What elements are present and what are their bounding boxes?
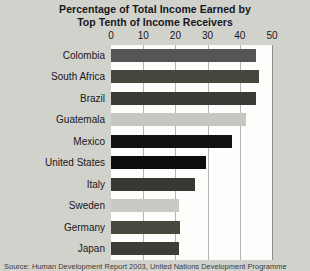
bar-row <box>111 174 272 196</box>
bar-japan <box>111 242 179 255</box>
bar-row <box>111 67 272 89</box>
bar-row <box>111 217 272 239</box>
bar-row <box>111 153 272 175</box>
category-label-germany: Germany <box>0 222 105 233</box>
bar-mexico <box>111 135 232 148</box>
bar-guatemala <box>111 113 246 126</box>
bar-row <box>111 45 272 67</box>
bar-sweden <box>111 199 179 212</box>
bar-series <box>111 45 272 260</box>
bar-row <box>111 88 272 110</box>
bar-south-africa <box>111 70 259 83</box>
category-axis-labels: ColombiaSouth AfricaBrazilGuatemalaMexic… <box>0 45 108 260</box>
bar-italy <box>111 178 195 191</box>
x-axis-tick-labels: 01020304050 <box>111 30 272 44</box>
x-tick-label-30: 30 <box>202 30 213 41</box>
category-label-japan: Japan <box>0 243 105 254</box>
bar-germany <box>111 221 180 234</box>
bar-brazil <box>111 92 256 105</box>
category-label-mexico: Mexico <box>0 136 105 147</box>
category-label-brazil: Brazil <box>0 93 105 104</box>
bar-colombia <box>111 49 256 62</box>
category-label-sweden: Sweden <box>0 200 105 211</box>
category-label-south-africa: South Africa <box>0 71 105 82</box>
plot-area <box>111 45 273 260</box>
category-label-united-states: United States <box>0 157 105 168</box>
bar-row <box>111 131 272 153</box>
category-label-italy: Italy <box>0 179 105 190</box>
bar-united-states <box>111 156 206 169</box>
bar-row <box>111 196 272 218</box>
x-tick-label-10: 10 <box>138 30 149 41</box>
chart-title-line-1: Percentage of Total Income Earned by <box>0 3 310 16</box>
bar-row <box>111 110 272 132</box>
x-tick-label-20: 20 <box>170 30 181 41</box>
chart-title-line-2: Top Tenth of Income Receivers <box>0 16 310 29</box>
category-label-colombia: Colombia <box>0 50 105 61</box>
x-tick-label-50: 50 <box>266 30 277 41</box>
chart-title: Percentage of Total Income Earned by Top… <box>0 3 310 28</box>
x-tick-label-40: 40 <box>234 30 245 41</box>
chart-figure: Percentage of Total Income Earned by Top… <box>0 0 310 271</box>
source-caption: Source: Human Development Report 2003, U… <box>4 262 306 271</box>
category-label-guatemala: Guatemala <box>0 114 105 125</box>
bar-row <box>111 239 272 261</box>
x-tick-label-0: 0 <box>108 30 114 41</box>
